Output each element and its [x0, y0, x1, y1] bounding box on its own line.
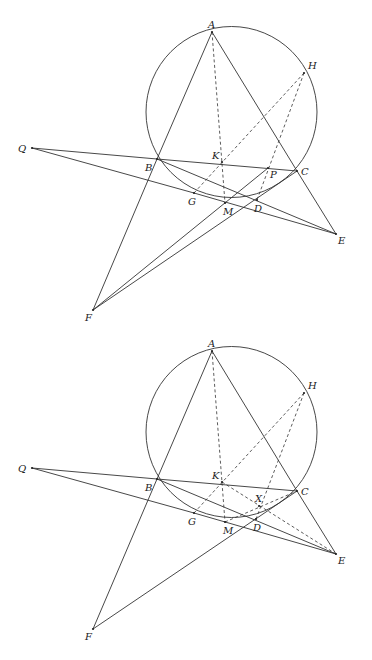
label-D: D: [252, 522, 261, 533]
label-K: K: [211, 470, 220, 481]
label-Q: Q: [18, 463, 26, 474]
label-E: E: [337, 555, 346, 566]
label-G: G: [188, 516, 196, 527]
label-C: C: [301, 486, 309, 497]
segment-BF: [93, 479, 157, 629]
label-F: F: [84, 631, 93, 642]
point-M: [224, 521, 226, 523]
point-X: [258, 505, 260, 507]
point-H: [303, 392, 305, 394]
circumcircle: [146, 347, 317, 518]
point-D: [255, 518, 257, 520]
point-F: [92, 628, 94, 630]
dashed-segment-KE: [222, 482, 336, 554]
point-E: [335, 553, 337, 555]
point-A: [211, 350, 213, 352]
point-C: [296, 490, 298, 492]
label-M: M: [222, 525, 234, 536]
segment-AC: [212, 351, 297, 491]
point-G: [193, 512, 195, 514]
label-H: H: [307, 380, 317, 391]
point-B: [156, 478, 158, 480]
geometry-figure-2: AHQBKXCGMDEF: [0, 0, 372, 660]
point-Q: [31, 467, 33, 469]
point-K: [221, 481, 223, 483]
dashed-segment-HD: [256, 393, 304, 519]
label-A: A: [207, 338, 215, 349]
label-B: B: [144, 482, 152, 493]
segment-AB: [157, 351, 212, 479]
figure-2-content: AHQBKXCGMDEF: [18, 338, 346, 642]
dashed-segment-AM: [212, 351, 225, 522]
label-X: X: [254, 493, 263, 504]
segment-BE: [157, 479, 336, 554]
